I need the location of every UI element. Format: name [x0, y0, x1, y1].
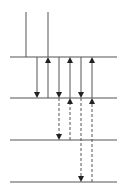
solid-arrow-0 — [34, 57, 40, 98]
dashed-arrow-0 — [56, 98, 62, 140]
dashed-arrow-1 — [67, 98, 73, 140]
incoming-lines — [26, 12, 48, 57]
transition-diagram — [0, 0, 128, 195]
solid-arrow-5 — [89, 57, 95, 98]
arrowhead-icon — [89, 98, 95, 104]
arrowhead-icon — [78, 176, 84, 182]
solid-arrow-2 — [56, 57, 62, 98]
solid-arrow-3 — [67, 57, 73, 98]
arrowhead-icon — [56, 134, 62, 140]
arrowhead-icon — [89, 57, 95, 63]
arrowhead-icon — [78, 92, 84, 98]
arrowhead-icon — [45, 57, 51, 63]
solid-arrow-1 — [45, 57, 51, 98]
arrowhead-icon — [67, 98, 73, 104]
arrowhead-icon — [34, 92, 40, 98]
arrowhead-icon — [56, 92, 62, 98]
arrowhead-icon — [67, 57, 73, 63]
solid-arrow-4 — [78, 57, 84, 98]
solid-transition-arrows — [34, 57, 95, 98]
energy-levels — [10, 57, 117, 182]
